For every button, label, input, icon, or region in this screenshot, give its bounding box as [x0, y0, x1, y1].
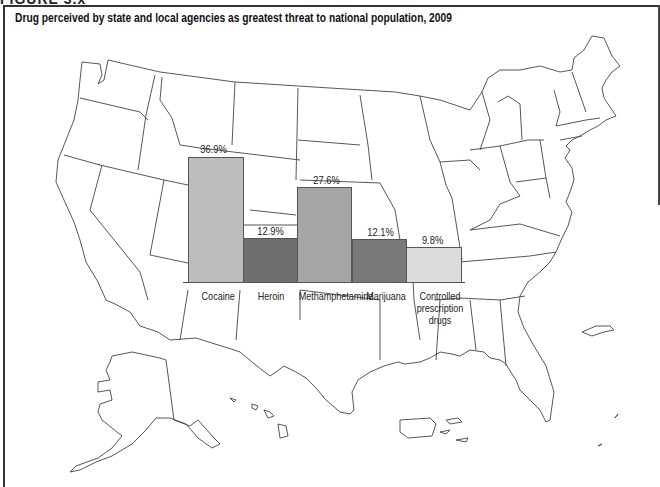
category-label-controlled-line3: drugs — [415, 314, 464, 326]
value-label-methamphetamine: 27.6% — [313, 174, 340, 186]
category-label-controlled-line2: prescription — [415, 302, 464, 314]
value-label-controlled: 9.8% — [422, 234, 443, 246]
bar-controlled-prescription-drugs — [406, 247, 462, 283]
value-label-heroin: 12.9% — [257, 225, 284, 237]
category-label-cocaine: Cocaine — [202, 290, 235, 302]
category-label-controlled-line1: Controlled — [415, 290, 464, 302]
value-label-cocaine: 36.9% — [200, 143, 227, 155]
value-label-marijuana: 12.1% — [367, 226, 394, 238]
category-label-heroin: Heroin — [256, 290, 286, 302]
bar-cocaine — [188, 157, 244, 283]
category-label-marijuana: Marijuana — [363, 290, 409, 302]
category-label-controlled: Controlled prescription drugs — [415, 290, 464, 326]
bar-marijuana — [352, 239, 407, 283]
bar-heroin — [243, 238, 298, 283]
bar-methamphetamine — [297, 187, 352, 283]
